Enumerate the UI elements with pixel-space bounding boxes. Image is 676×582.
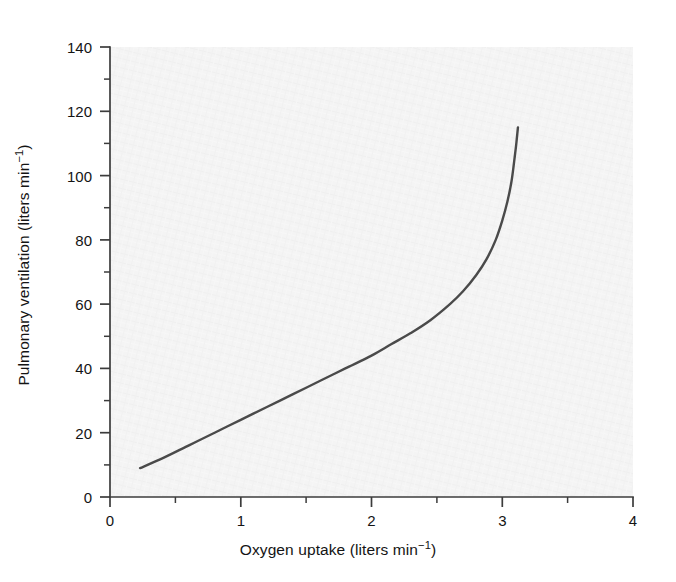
y-tick-label-120: 120 xyxy=(46,103,92,120)
x-axis-title: Oxygen uptake (liters min−1) xyxy=(0,539,676,559)
x-tick-label-1: 1 xyxy=(237,512,245,529)
x-tick-label-3: 3 xyxy=(498,512,506,529)
plot-area xyxy=(110,47,633,497)
y-axis-title-prefix: Pulmonary ventilation (liters min xyxy=(15,163,32,386)
x-tick-label-0: 0 xyxy=(106,512,114,529)
y-tick-label-40: 40 xyxy=(46,360,92,377)
caption-strip xyxy=(0,566,676,582)
y-tick-label-80: 80 xyxy=(46,231,92,248)
y-tick-label-100: 100 xyxy=(46,167,92,184)
y-minor-ticks xyxy=(104,79,110,465)
x-tick-label-4: 4 xyxy=(629,512,637,529)
y-tick-label-20: 20 xyxy=(46,424,92,441)
y-axis-title-wrapper: Pulmonary ventilation (liters min−1) xyxy=(0,0,46,530)
chart-plot xyxy=(0,0,676,582)
y-tick-label-0: 0 xyxy=(46,489,92,506)
y-axis-title-exponent: −1 xyxy=(13,150,25,163)
x-axis-title-exponent: −1 xyxy=(418,539,431,551)
figure-container: 0 20 40 60 80 100 120 140 0 1 2 3 4 Oxyg… xyxy=(0,0,676,582)
x-axis-title-prefix: Oxygen uptake (liters min xyxy=(240,541,418,558)
y-tick-label-60: 60 xyxy=(46,296,92,313)
x-major-ticks xyxy=(110,497,633,507)
x-tick-label-2: 2 xyxy=(367,512,375,529)
y-axis-title: Pulmonary ventilation (liters min−1) xyxy=(13,144,33,385)
y-axis-title-suffix: ) xyxy=(15,144,32,149)
x-axis-title-suffix: ) xyxy=(431,541,436,558)
y-tick-label-140: 140 xyxy=(46,39,92,56)
